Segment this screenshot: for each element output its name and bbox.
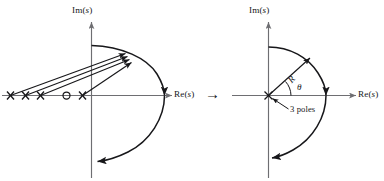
right-im-axis-label: Im(s) [249, 6, 269, 15]
angle-arc [286, 82, 292, 96]
ray [11, 54, 126, 96]
figure-root: Im(s) Re(s) Im(s) Re(s) R θ 3 poles → [0, 0, 384, 181]
right-plot-axes [232, 22, 356, 178]
poles-leader-line [273, 99, 289, 110]
left-plot-axes [2, 22, 172, 178]
left-plot-departure-rays [11, 54, 132, 96]
left-re-axis-label: Re(s) [174, 90, 194, 99]
left-plot-locus-arc [92, 46, 165, 162]
left-im-axis-label: Im(s) [72, 6, 92, 15]
angle-label: θ [297, 83, 302, 92]
right-plot-locus-arc [269, 47, 327, 158]
ray [83, 63, 132, 96]
three-poles-annotation: 3 poles [290, 105, 315, 114]
transition-arrow-icon: → [205, 87, 220, 102]
ray [41, 60, 130, 96]
right-re-axis-label: Re(s) [358, 90, 378, 99]
